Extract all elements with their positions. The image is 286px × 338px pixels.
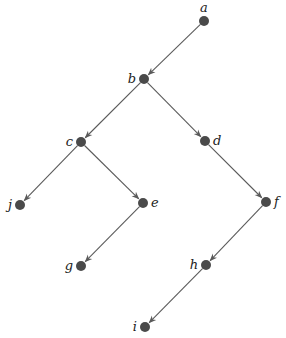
node-dot-icon (199, 16, 209, 26)
node-dot-icon (76, 261, 86, 271)
node-dot-icon (15, 200, 25, 210)
node-g: g (65, 258, 86, 273)
edge-h-i (149, 269, 202, 323)
edge-f-h (210, 206, 262, 261)
node-dot-icon (261, 197, 271, 207)
node-b: b (128, 71, 149, 86)
node-label: c (66, 134, 74, 149)
node-label: f (273, 194, 281, 209)
node-dot-icon (140, 322, 150, 332)
node-label: h (190, 257, 198, 272)
node-label: d (213, 133, 221, 148)
node-dot-icon (201, 260, 211, 270)
edge-c-j (24, 146, 77, 201)
node-dot-icon (200, 136, 210, 146)
node-dot-icon (138, 198, 148, 208)
tree-diagram: abcdjefghi (0, 0, 286, 338)
edge-b-c (85, 83, 140, 138)
edge-b-d (148, 83, 201, 137)
edge-e-g (85, 207, 139, 262)
node-label: i (133, 319, 137, 334)
nodes-group: abcdjefghi (5, 0, 281, 334)
node-label: b (128, 71, 136, 86)
node-i: i (133, 319, 150, 334)
node-e: e (138, 195, 159, 210)
edge-d-f (209, 145, 262, 198)
edge-c-e (85, 146, 139, 199)
node-label: g (65, 258, 73, 273)
edge-a-b (148, 24, 200, 74)
node-h: h (190, 257, 211, 272)
node-a: a (199, 0, 209, 26)
node-dot-icon (139, 74, 149, 84)
node-label: j (5, 197, 12, 212)
node-j: j (5, 197, 25, 212)
node-label: e (151, 195, 159, 210)
node-label: a (200, 0, 208, 15)
edges-group (24, 24, 262, 322)
node-dot-icon (76, 137, 86, 147)
node-d: d (200, 133, 221, 148)
node-f: f (261, 194, 281, 209)
